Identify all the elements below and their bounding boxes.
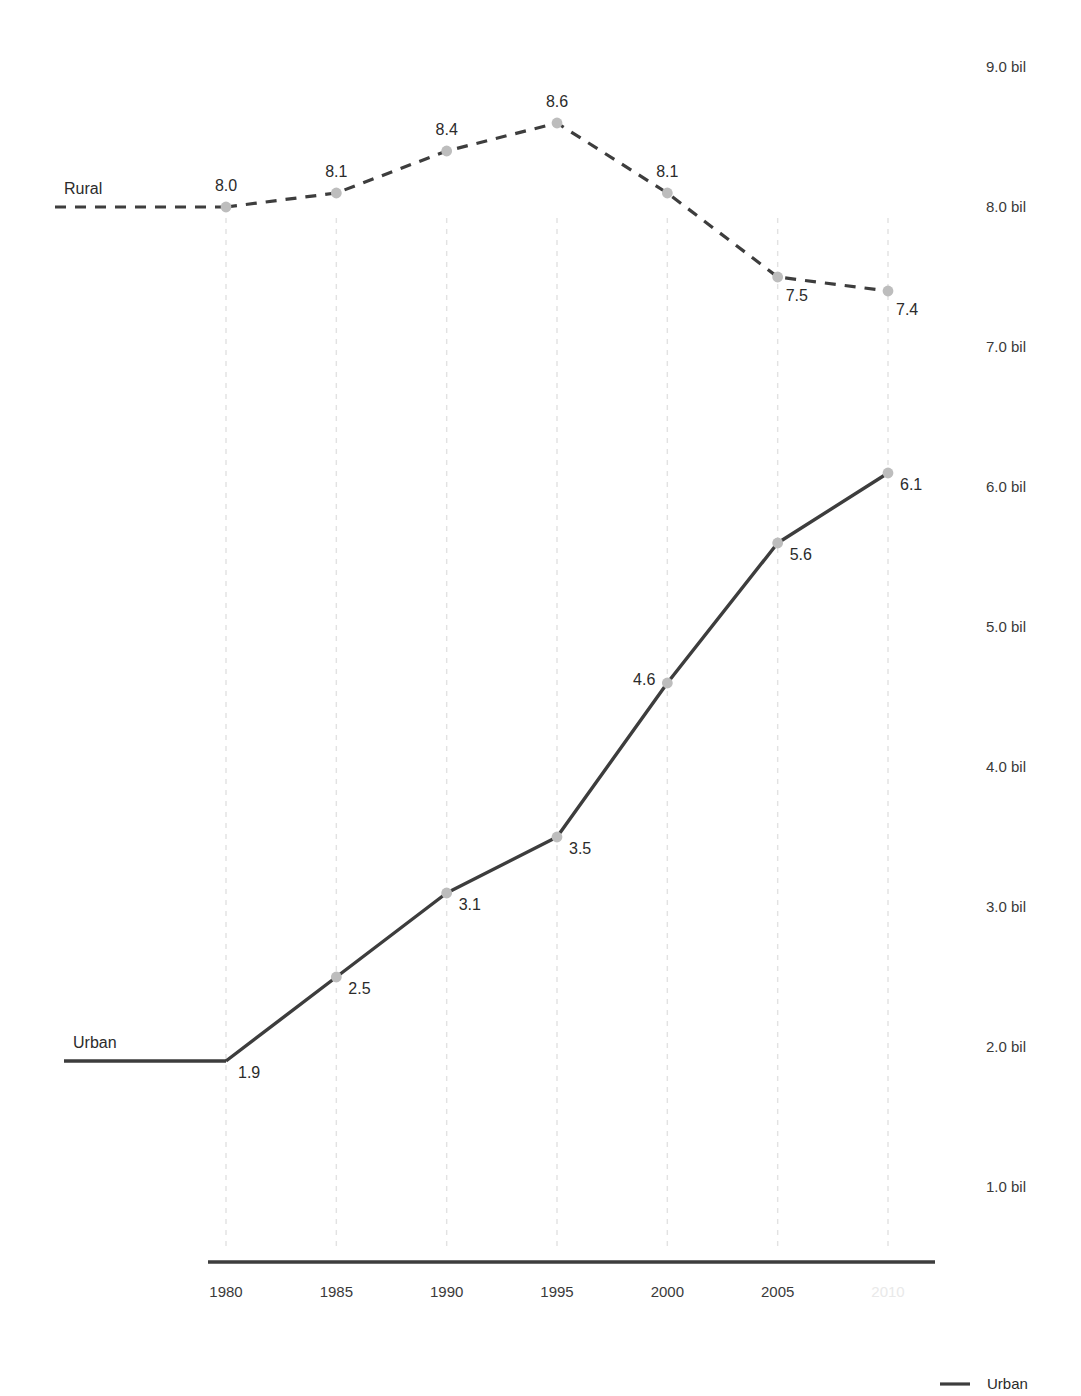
y-tick-label: 6.0 bil [986,478,1026,495]
value-label: 5.6 [790,546,812,563]
value-label: 8.0 [215,177,237,194]
value-label: 6.1 [900,476,922,493]
data-point-marker[interactable] [772,272,783,283]
value-label: 8.6 [546,93,568,110]
chart-container: 8.08.18.48.68.17.57.41.92.53.13.54.65.66… [0,0,1081,1396]
y-tick-label: 4.0 bil [986,758,1026,775]
value-label: 4.6 [633,671,655,688]
y-tick-label: 1.0 bil [986,1178,1026,1195]
y-tick-label: 3.0 bil [986,898,1026,915]
data-point-marker[interactable] [441,146,452,157]
data-point-marker[interactable] [883,468,894,479]
line-chart: 8.08.18.48.68.17.57.41.92.53.13.54.65.66… [0,0,1081,1396]
series-label-rural: Rural [64,180,102,197]
value-label: 3.5 [569,840,591,857]
data-point-marker[interactable] [552,118,563,129]
data-point-marker[interactable] [662,188,673,199]
value-label: 7.5 [786,287,808,304]
value-label: 8.1 [325,163,347,180]
data-point-marker[interactable] [331,188,342,199]
data-point-marker[interactable] [552,832,563,843]
series-label-urban: Urban [73,1034,117,1051]
x-tick-label: 1990 [430,1283,463,1300]
value-label: 7.4 [896,301,918,318]
value-label: 2.5 [348,980,370,997]
x-tick-label: 1995 [540,1283,573,1300]
x-tick-label: 2005 [761,1283,794,1300]
y-tick-label: 2.0 bil [986,1038,1026,1055]
y-tick-label: 9.0 bil [986,58,1026,75]
data-point-marker[interactable] [331,972,342,983]
data-point-marker[interactable] [883,286,894,297]
x-tick-label: 2010 [871,1283,904,1300]
x-tick-label: 2000 [651,1283,684,1300]
data-point-marker[interactable] [662,678,673,689]
chart-background [0,0,1081,1396]
value-label: 1.9 [238,1064,260,1081]
value-label: 3.1 [459,896,481,913]
data-point-marker[interactable] [772,538,783,549]
y-tick-label: 7.0 bil [986,338,1026,355]
value-label: 8.1 [656,163,678,180]
legend-label-urban[interactable]: Urban [987,1375,1028,1392]
y-tick-label: 8.0 bil [986,198,1026,215]
data-point-marker[interactable] [441,888,452,899]
y-tick-label: 5.0 bil [986,618,1026,635]
data-point-marker[interactable] [221,202,232,213]
x-tick-label: 1980 [209,1283,242,1300]
value-label: 8.4 [436,121,458,138]
x-tick-label: 1985 [320,1283,353,1300]
